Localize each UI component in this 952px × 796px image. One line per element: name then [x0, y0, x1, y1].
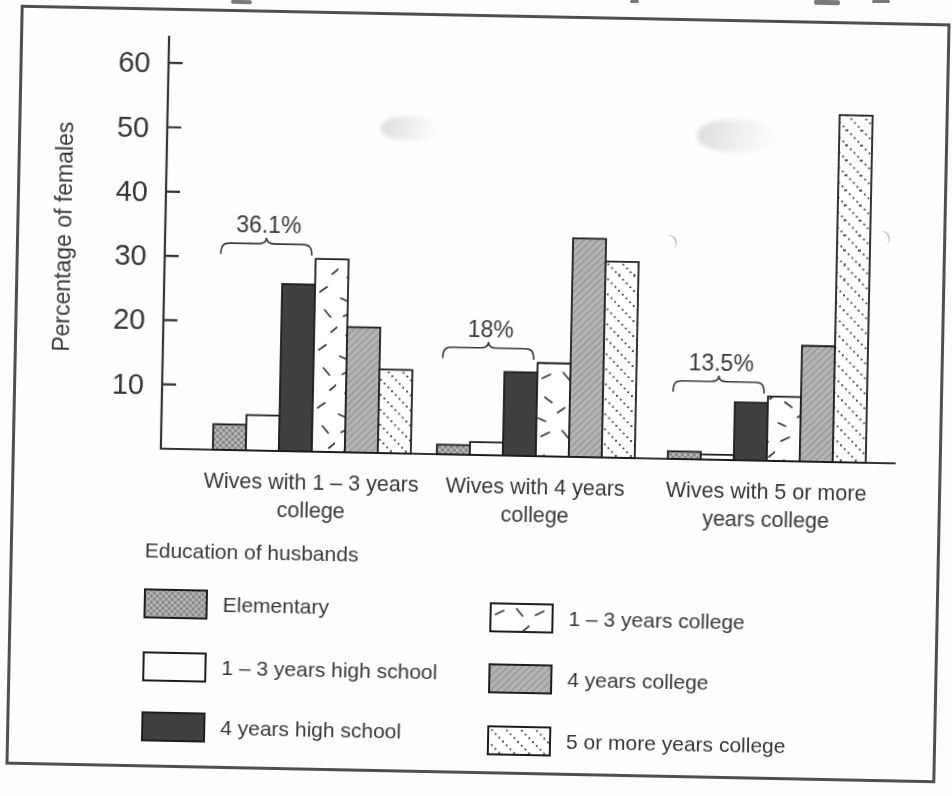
cropped-text-artifact	[231, 0, 252, 4]
group-label-2: years college	[702, 507, 829, 534]
y-axis	[161, 36, 169, 450]
cropped-text-artifact	[630, 0, 639, 3]
legend-swatch-elementary	[143, 588, 208, 619]
legend-swatch-1-3-years-high-school	[142, 651, 207, 682]
bar-group1-dash-marks	[536, 363, 571, 457]
cropped-text-artifact	[872, 0, 890, 3]
bar-group0-dash-marks	[312, 259, 349, 453]
bar-group0-dotted-gray	[213, 424, 247, 450]
y-tick-label-40: 40	[115, 174, 148, 207]
bar-group1-dotted-gray	[437, 445, 470, 455]
group-label-1: Wives with 4 years	[445, 473, 625, 501]
group-label-0: college	[276, 498, 345, 523]
swatch-rect	[490, 603, 553, 632]
legend-item-4-years-college: 4 years college	[488, 663, 709, 697]
bar-group1-white	[470, 442, 503, 456]
swatch-rect	[143, 652, 206, 681]
scanned-chart-page: 102030405060Percentage of females36.1%18…	[0, 0, 952, 796]
bar-group2-gray-hatch	[800, 346, 835, 462]
annotation-13.5%: 13.5%	[688, 349, 754, 376]
swatch-rect	[488, 726, 551, 755]
legend-swatch-5-or-more-years-college	[487, 725, 552, 756]
y-tick-label-30: 30	[114, 239, 147, 272]
bar-group0-gray-hatch	[345, 327, 381, 453]
legend-item-1-3-years-college: 1 – 3 years college	[489, 602, 745, 637]
bar-group1-diag-dots	[602, 261, 639, 458]
scan-smudge	[381, 116, 437, 141]
annotation-36.1%: 36.1%	[236, 211, 302, 238]
bar-group2-white	[701, 454, 734, 460]
annotation-18%: 18%	[468, 316, 515, 343]
legend-label: Elementary	[222, 593, 329, 619]
bar-group0-solid-dark	[279, 284, 315, 452]
legend-swatch-1-3-years-college	[489, 602, 554, 633]
bar-group0-diag-dots	[378, 369, 413, 453]
legend-label: 1 – 3 years college	[568, 607, 745, 635]
bar-group0-white	[246, 415, 280, 451]
legend-item-4-years-high-school: 4 years high school	[141, 711, 402, 746]
figure-frame: 102030405060Percentage of females36.1%18…	[5, 5, 950, 784]
y-tick-label-50: 50	[117, 110, 150, 143]
scan-smudge	[697, 119, 776, 153]
cropped-text-artifact	[814, 0, 840, 5]
legend-label: 4 years college	[567, 668, 709, 695]
legend-item-elementary: Elementary	[143, 588, 329, 622]
y-axis-label: Percentage of females	[48, 121, 79, 352]
legend-label: 4 years high school	[220, 716, 401, 744]
bar-group2-solid-dark	[734, 402, 768, 461]
y-tick-label-10: 10	[112, 367, 145, 400]
legend-item-5-or-more-years-college: 5 or more years college	[487, 725, 786, 761]
group-label-2: Wives with 5 or more	[666, 478, 867, 506]
legend-label: 5 or more years college	[566, 730, 786, 758]
bar-group1-gray-hatch	[569, 238, 606, 457]
brace-group0	[221, 237, 312, 256]
legend-swatch-4-years-college	[488, 663, 553, 694]
y-tick-label-60: 60	[118, 46, 151, 79]
legend-item-1-3-years-high-school: 1 – 3 years high school	[142, 651, 438, 687]
swatch-rect	[142, 712, 205, 741]
bar-group2-dotted-gray	[668, 451, 701, 459]
group-label-0: Wives with 1 – 3 years	[203, 469, 419, 497]
bar-group1-solid-dark	[503, 372, 538, 456]
legend-title: Education of husbands	[145, 538, 359, 566]
bar-group2-diag-dots	[833, 115, 873, 463]
swatch-rect	[489, 664, 552, 693]
group-label-1: college	[500, 502, 569, 527]
swatch-rect	[144, 589, 207, 618]
brace-group1	[443, 341, 534, 360]
legend-swatch-4-years-high-school	[141, 711, 206, 742]
brace-group2	[673, 375, 764, 394]
legend-label: 1 – 3 years high school	[221, 656, 437, 684]
bar-group2-dash-marks	[767, 397, 801, 462]
y-tick-label-20: 20	[113, 303, 146, 336]
